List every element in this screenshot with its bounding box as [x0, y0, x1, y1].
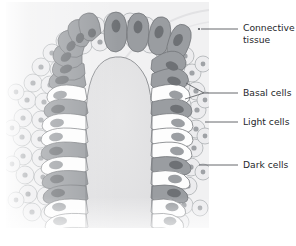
label-connective-tissue-line1: Connective [243, 22, 295, 33]
duct-cross-section-illustration: Connective tissue Basal cells Light cell… [0, 0, 296, 246]
histology-figure: Connective tissue Basal cells Light cell… [0, 0, 296, 246]
label-basal-cells: Basal cells [243, 87, 292, 98]
label-connective-tissue-line2: tissue [243, 34, 271, 45]
label-light-cells: Light cells [243, 116, 290, 127]
connective-tissue-leader-dot [198, 28, 200, 30]
label-dark-cells: Dark cells [243, 159, 289, 170]
